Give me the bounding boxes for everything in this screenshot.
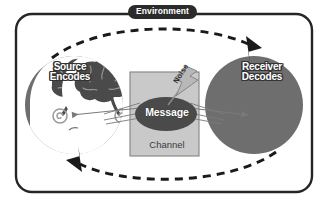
- message-ellipse: [135, 97, 197, 131]
- diagram-canvas: [0, 0, 328, 202]
- communication-model-diagram: Environment Source Encodes Receiver Deco…: [0, 0, 328, 202]
